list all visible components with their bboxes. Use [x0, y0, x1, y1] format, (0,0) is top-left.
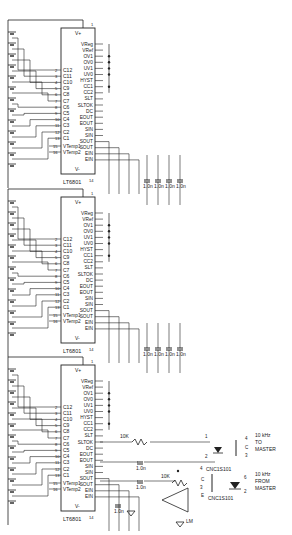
pin-label-ein: EIN	[85, 488, 94, 493]
pin-label-sltok: SLTOK	[78, 103, 94, 108]
battery-cell-icon	[8, 435, 16, 437]
pin-label: C	[245, 445, 249, 450]
pin-label-sout: SOUT	[80, 482, 93, 487]
pin-label-ein: EIN	[85, 494, 94, 499]
signal-label-master: MASTER	[255, 446, 276, 452]
pin-label-ov0: OV0	[83, 397, 93, 402]
pin-label-c4: C4	[63, 116, 70, 122]
pin-label-c11: C11	[63, 410, 72, 416]
pin-label-sout: SOUT	[80, 314, 93, 319]
pin-label-sin: SIN	[85, 296, 94, 301]
pin-label-c6: C6	[63, 441, 70, 447]
pin-number: 2	[244, 489, 247, 494]
ground-icon	[127, 511, 135, 516]
pin-label-c11: C11	[63, 242, 72, 248]
pin-label-c5: C5	[63, 279, 70, 285]
pin-label-vminus: V-	[75, 166, 80, 172]
pin-label-eout: EOUT	[80, 284, 93, 289]
pin-label-sltok: SLTOK	[78, 272, 94, 277]
battery-cell-icon	[8, 446, 16, 448]
pin-number: 1	[91, 22, 94, 27]
capacitor-label: 1.0n	[176, 183, 186, 189]
pin-label-vtemp: VTemp2	[63, 150, 81, 155]
junction-dot	[108, 230, 110, 232]
pin-label-sin: SIN	[85, 127, 94, 132]
pin-label-sout: SOUT	[80, 145, 93, 150]
junction-dot	[108, 61, 110, 63]
pin-number: 4	[200, 466, 203, 471]
battery-cell-icon	[8, 267, 16, 269]
pin-label-cc1: CC1	[83, 84, 93, 89]
pin-label-c1: C1	[63, 472, 70, 478]
pin-label-ov1: OV1	[83, 391, 93, 396]
pin-label-vtemp: VTemp2	[63, 319, 81, 324]
ic-part-label: LT6801	[63, 348, 81, 354]
pin-label-sout: SOUT	[80, 308, 93, 313]
pin-label-c12: C12	[63, 404, 72, 410]
battery-cell-icon	[8, 300, 16, 302]
battery-cell-icon	[8, 76, 16, 78]
signal-label-to: TO	[255, 439, 262, 445]
pin-number: 3	[200, 485, 203, 490]
pin-label-hyst: HYST	[80, 415, 93, 420]
pin-label-sin: SIN	[85, 302, 94, 307]
junction-dot	[108, 224, 110, 226]
pin-label-c10: C10	[63, 416, 72, 422]
pin-number: 1	[91, 191, 94, 196]
pin-label-c9: C9	[63, 254, 70, 260]
optocoupler-part-label: CNC1S101	[208, 495, 234, 501]
pin-label-cc2: CC2	[83, 90, 93, 95]
battery-cell-icon	[8, 322, 16, 324]
junction-dot	[108, 86, 110, 88]
pin-label-c6: C6	[63, 273, 70, 279]
pin-label-c3: C3	[63, 459, 70, 465]
pin-label-vref: VRef	[82, 217, 93, 222]
pin-label-sltok: SLTOK	[78, 440, 94, 445]
pin-label-cc2: CC2	[83, 259, 93, 264]
pin-label-dc: DC	[86, 278, 93, 283]
battery-cell-icon	[8, 490, 16, 492]
junction-dot	[108, 242, 110, 244]
pin-label-vreg: VReg	[81, 42, 93, 47]
pin-label-ein: EIN	[85, 151, 94, 156]
pin-label-vref: VRef	[82, 385, 93, 390]
battery-cell-icon	[8, 234, 16, 236]
led-icon	[230, 482, 240, 489]
pin-label-c2: C2	[63, 298, 70, 304]
junction-dot	[108, 410, 110, 412]
pin-label-c7: C7	[63, 435, 70, 441]
pin-label-ein: EIN	[85, 326, 94, 331]
battery-cell-icon	[8, 501, 16, 503]
junction-dot	[108, 55, 110, 57]
pin-label-vreg: VReg	[81, 211, 93, 216]
pin-number: 4	[245, 436, 248, 441]
pin-label-sout: SOUT	[80, 139, 93, 144]
battery-cell-icon	[8, 479, 16, 481]
comparator-icon	[162, 488, 188, 512]
pin-label-cc1: CC1	[83, 253, 93, 258]
signal-label-10khz: 10 kHz	[255, 432, 271, 438]
pin-label-sin: SIN	[85, 464, 94, 469]
pin-label-sout: SOUT	[80, 476, 93, 481]
optocoupler-part-label: CNC1S101	[206, 466, 232, 472]
pin-label-uv0: UV0	[84, 241, 94, 246]
pin-label-slt: SLT	[85, 265, 94, 270]
junction-dot	[108, 236, 110, 238]
pin-label-vplus: V+	[75, 30, 81, 36]
pin-label-uv1: UV1	[84, 66, 94, 71]
battery-cell-icon	[8, 402, 16, 404]
signal-label-from: FROM	[255, 478, 270, 484]
pin-label-hyst: HYST	[80, 247, 93, 252]
pin-label: C	[201, 477, 205, 482]
pin-label-vtemp: VTemp1	[63, 481, 81, 486]
pin-label-ov0: OV0	[83, 229, 93, 234]
battery-cell-icon	[8, 311, 16, 313]
pin-label-cc2: CC2	[83, 427, 93, 432]
battery-cell-icon	[8, 289, 16, 291]
capacitor-label: 1.0n	[136, 484, 146, 490]
battery-cell-icon	[8, 164, 16, 166]
battery-cell-icon	[8, 333, 16, 335]
ground-icon	[176, 522, 184, 527]
pin-label-c12: C12	[63, 67, 72, 73]
pin-number: 14	[89, 515, 94, 520]
